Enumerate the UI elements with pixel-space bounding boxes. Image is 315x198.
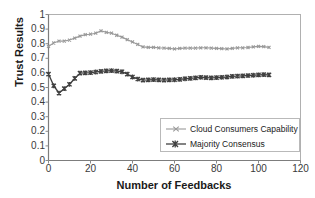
legend-marker-icon (165, 138, 187, 150)
x-tick-label: 40 (113, 164, 153, 174)
chart-legend: Cloud Consumers Capability Majority Cons… (160, 118, 300, 152)
x-axis-title: Number of Feedbacks (48, 178, 300, 193)
legend-label: Majority Consensus (190, 138, 265, 150)
chart-container: Trust Results 00.10.20.30.40.50.60.70.80… (0, 0, 314, 198)
x-tick-label: 80 (197, 164, 237, 174)
x-tick-label: 60 (155, 164, 195, 174)
legend-label: Cloud Consumers Capability (190, 123, 298, 135)
x-tick-label: 100 (239, 164, 279, 174)
legend-item-cloud-consumers-capability: Cloud Consumers Capability (165, 122, 299, 136)
series-majority-consensus (46, 68, 271, 95)
x-tick-label: 120 (281, 164, 315, 174)
legend-item-majority-consensus: Majority Consensus (165, 137, 299, 151)
x-axis-tick-labels: 020406080100120 (0, 164, 314, 178)
series-cloud-consumers-capability (47, 29, 271, 50)
legend-marker-icon (165, 123, 187, 135)
x-tick-label: 0 (29, 164, 69, 174)
x-tick-label: 20 (71, 164, 111, 174)
